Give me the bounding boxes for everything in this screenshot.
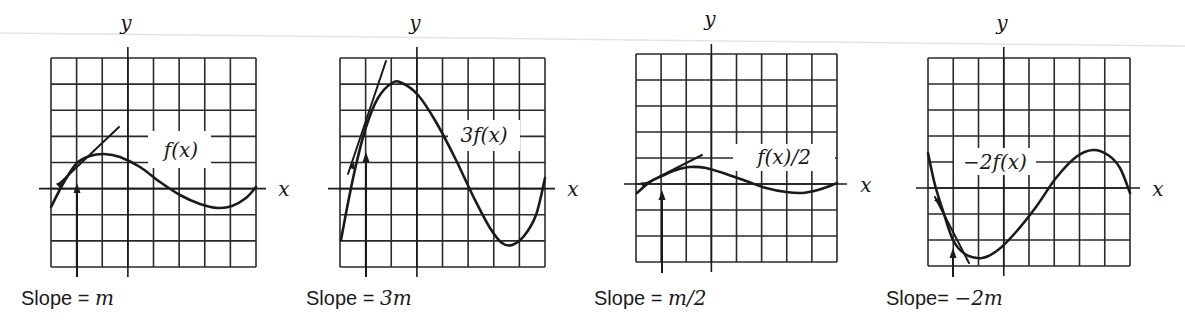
panel-neg2f: yx−2f(x)Slope= −2m: [886, 11, 1164, 310]
arrowhead-up-icon: [950, 248, 957, 258]
slope-prefix: Slope =: [306, 287, 380, 309]
slope-value: −2m: [954, 286, 1002, 310]
slope-caption: Slope= −2m: [886, 286, 1003, 310]
tangent-line: [645, 155, 702, 184]
slope-value: 3m: [380, 286, 412, 310]
x-axis-label: x: [1152, 177, 1163, 201]
function-label: 3f(x): [460, 123, 507, 147]
slope-prefix: Slope =: [594, 287, 668, 309]
y-axis-label: y: [995, 11, 1008, 35]
slope-caption: Slope = m: [21, 286, 114, 310]
figure-four-panels: yxf(x)Slope = m yx3f(x)Slope = 3m yxf(x)…: [0, 0, 1185, 329]
function-label: f(x): [162, 138, 198, 162]
arrowhead-up-icon: [363, 152, 370, 162]
y-axis-label: y: [408, 11, 421, 35]
y-axis-label: y: [119, 11, 132, 35]
arrowhead-up-icon: [659, 190, 666, 200]
panel-f-half: yxf(x)/2Slope = m/2: [594, 7, 872, 310]
slope-value: m: [95, 286, 114, 310]
x-axis-label: x: [860, 173, 871, 197]
grid-lines: [340, 58, 545, 267]
slope-value: m/2: [668, 286, 706, 310]
slope-prefix: Slope =: [21, 287, 95, 309]
slope-prefix: Slope=: [886, 287, 954, 309]
function-label: −2f(x): [963, 150, 1027, 174]
function-label: f(x)/2: [755, 145, 811, 169]
slope-caption: Slope = 3m: [306, 286, 412, 310]
slope-caption: Slope = m/2: [594, 286, 706, 310]
panel-3f: yx3f(x)Slope = 3m: [306, 11, 579, 310]
x-axis-label: x: [278, 177, 289, 201]
panel-f: yxf(x)Slope = m: [21, 11, 290, 310]
x-axis-label: x: [567, 177, 578, 201]
y-axis-label: y: [703, 7, 716, 31]
